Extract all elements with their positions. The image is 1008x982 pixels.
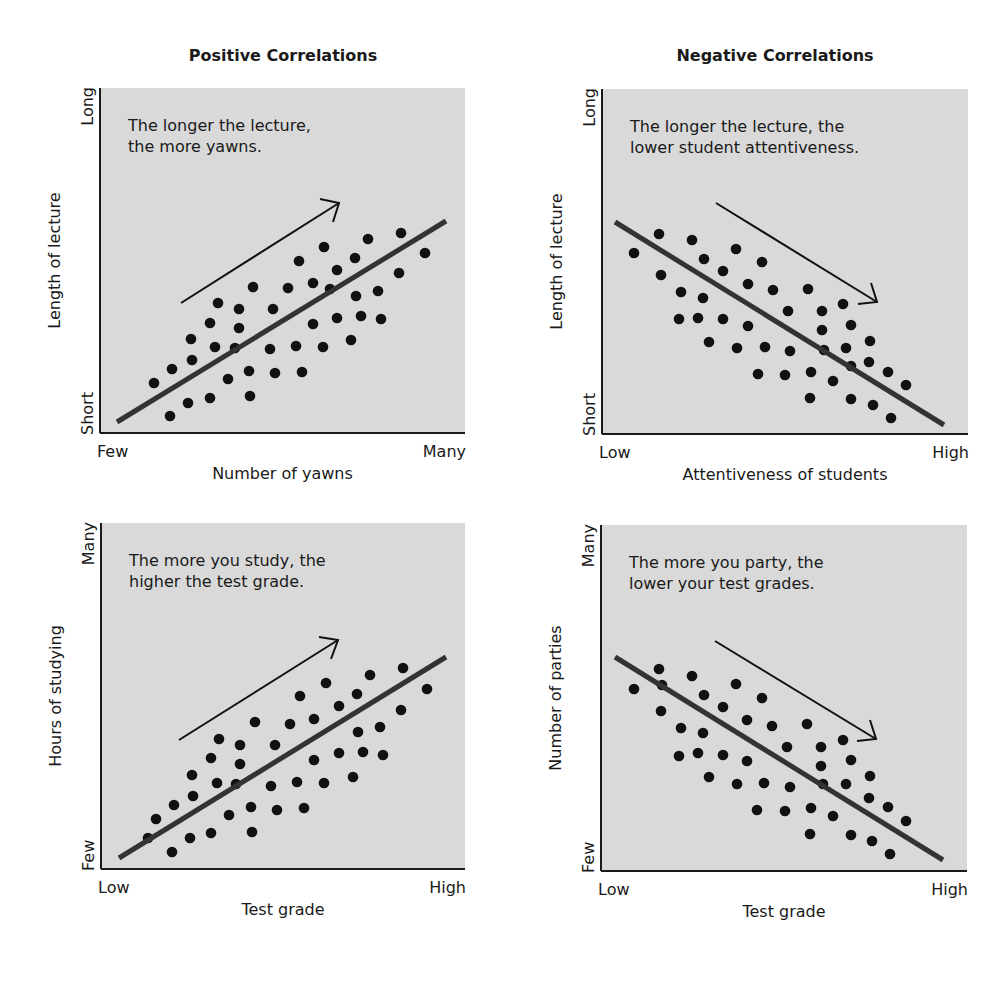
data-point (422, 684, 433, 695)
data-point (816, 742, 827, 753)
x-axis-label: Test grade (240, 900, 324, 919)
x-axis-label: Number of yawns (212, 464, 353, 483)
x-tick-min: Low (599, 443, 631, 462)
data-point (803, 284, 814, 295)
data-point (244, 366, 255, 377)
data-point (731, 244, 742, 255)
data-point (169, 800, 180, 811)
data-point (864, 793, 875, 804)
data-point (886, 413, 897, 424)
data-point (732, 779, 743, 790)
data-point (752, 805, 763, 816)
data-point (806, 803, 817, 814)
data-point (759, 778, 770, 789)
data-point (753, 369, 764, 380)
data-point (817, 306, 828, 317)
data-point (693, 748, 704, 759)
data-point (817, 325, 828, 336)
data-point (743, 321, 754, 332)
data-point (376, 314, 387, 325)
data-point (864, 357, 875, 368)
data-point (732, 343, 743, 354)
x-axis-label: Attentiveness of students (683, 465, 888, 484)
annotation-line: higher the test grade. (129, 572, 304, 591)
data-point (654, 664, 665, 675)
data-point (365, 670, 376, 681)
scatter-panel-bottom-left: The more you study, thehigher the test g… (46, 522, 466, 919)
x-tick-max: High (931, 880, 968, 899)
data-point (704, 337, 715, 348)
y-axis-label: Length of lecture (45, 192, 64, 328)
scatter-panel-bottom-right: The more you party, thelower your test g… (546, 524, 968, 921)
data-point (358, 747, 369, 758)
data-point (285, 719, 296, 730)
data-point (297, 367, 308, 378)
y-tick-min: Few (579, 842, 598, 873)
data-point (718, 702, 729, 713)
data-point (757, 257, 768, 268)
data-point (248, 282, 259, 293)
data-point (353, 727, 364, 738)
data-point (378, 750, 389, 761)
annotation-line: the more yawns. (128, 137, 262, 156)
data-point (308, 278, 319, 289)
data-point (868, 400, 879, 411)
data-point (780, 370, 791, 381)
data-point (224, 810, 235, 821)
data-point (699, 254, 710, 265)
data-point (294, 256, 305, 267)
x-tick-max: High (932, 443, 969, 462)
data-point (785, 346, 796, 357)
data-point (704, 772, 715, 783)
scatter-panel-top-right: The longer the lecture, thelower student… (547, 88, 969, 484)
data-point (206, 753, 217, 764)
data-point (266, 781, 277, 792)
data-point (167, 364, 178, 375)
data-point (332, 313, 343, 324)
data-point (291, 341, 302, 352)
data-point (838, 735, 849, 746)
data-point (356, 311, 367, 322)
data-point (805, 829, 816, 840)
data-point (299, 803, 310, 814)
data-point (308, 319, 319, 330)
y-tick-max: Long (78, 87, 97, 126)
data-point (309, 755, 320, 766)
y-tick-max: Many (79, 522, 98, 565)
data-point (420, 248, 431, 259)
data-point (205, 318, 216, 329)
data-point (223, 374, 234, 385)
data-point (846, 755, 857, 766)
data-point (350, 253, 361, 264)
x-tick-min: Few (97, 442, 128, 461)
data-point (186, 334, 197, 345)
data-point (292, 777, 303, 788)
data-point (782, 742, 793, 753)
data-point (270, 740, 281, 751)
data-point (883, 802, 894, 813)
data-point (846, 830, 857, 841)
y-tick-min: Short (580, 393, 599, 436)
data-point (828, 376, 839, 387)
data-point (805, 393, 816, 404)
data-point (309, 714, 320, 725)
data-point (838, 299, 849, 310)
data-point (396, 705, 407, 716)
data-point (188, 791, 199, 802)
data-point (768, 285, 779, 296)
x-tick-max: High (429, 878, 466, 897)
data-point (210, 342, 221, 353)
data-point (183, 398, 194, 409)
scatter-panel-top-left: The longer the lecture,the more yawns.Fe… (45, 87, 466, 483)
data-point (699, 690, 710, 701)
data-point (816, 761, 827, 772)
data-point (731, 679, 742, 690)
annotation-line: The longer the lecture, the (629, 117, 844, 136)
annotation-line: The more you party, the (628, 553, 824, 572)
y-axis-label: Number of parties (546, 625, 565, 770)
data-point (674, 314, 685, 325)
data-point (785, 782, 796, 793)
data-point (319, 778, 330, 789)
data-point (319, 242, 330, 253)
data-point (742, 756, 753, 767)
